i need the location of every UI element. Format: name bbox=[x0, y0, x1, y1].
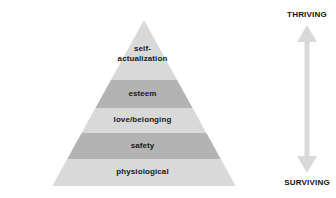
thriving-surviving-axis: THRIVING SURVIVING bbox=[278, 0, 336, 198]
pyramid-graphic: self- actualization esteem love/belongin… bbox=[0, 0, 285, 198]
pyramid-svg bbox=[0, 0, 285, 198]
maslow-hierarchy-diagram: self- actualization esteem love/belongin… bbox=[0, 0, 336, 198]
pyramid-tier-safety bbox=[67, 133, 221, 159]
pyramid-tier-esteem bbox=[95, 80, 192, 108]
axis-label-thriving: THRIVING bbox=[278, 10, 336, 19]
pyramid-tier-self-actualization bbox=[111, 20, 177, 80]
axis-label-surviving: SURVIVING bbox=[278, 178, 336, 187]
pyramid-tier-physiological bbox=[52, 159, 235, 186]
double-headed-vertical-arrow-icon bbox=[294, 24, 320, 174]
pyramid-tier-love-belonging bbox=[82, 108, 207, 133]
